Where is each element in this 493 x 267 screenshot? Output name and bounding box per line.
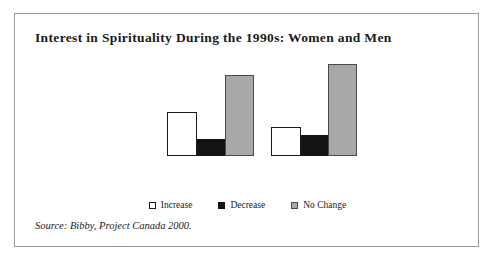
- bar-women-decrease: [197, 139, 225, 156]
- bar-men-increase: [271, 127, 301, 156]
- bar-men-decrease: [301, 135, 328, 156]
- legend-swatch-increase-icon: [149, 202, 156, 209]
- legend-item-nochange: No Change: [291, 200, 346, 210]
- bar-women-increase: [167, 112, 197, 156]
- chart-plot-area: 31% 12% 57% Women 20% 15% 65% Men: [15, 14, 480, 248]
- legend-swatch-nochange-icon: [291, 202, 298, 209]
- bar-women-nochange: [225, 75, 254, 156]
- legend-label-increase: Increase: [161, 200, 193, 210]
- legend-label-nochange: No Change: [303, 200, 346, 210]
- figure-frame: Interest in Spirituality During the 1990…: [14, 13, 479, 247]
- legend-item-increase: Increase: [149, 200, 193, 210]
- legend-swatch-decrease-icon: [218, 202, 225, 209]
- bar-men-nochange: [328, 64, 357, 156]
- source-note: Source: Bibby, Project Canada 2000.: [35, 220, 192, 231]
- legend-label-decrease: Decrease: [230, 200, 265, 210]
- chart-legend: Increase Decrease No Change: [15, 200, 480, 210]
- legend-item-decrease: Decrease: [218, 200, 265, 210]
